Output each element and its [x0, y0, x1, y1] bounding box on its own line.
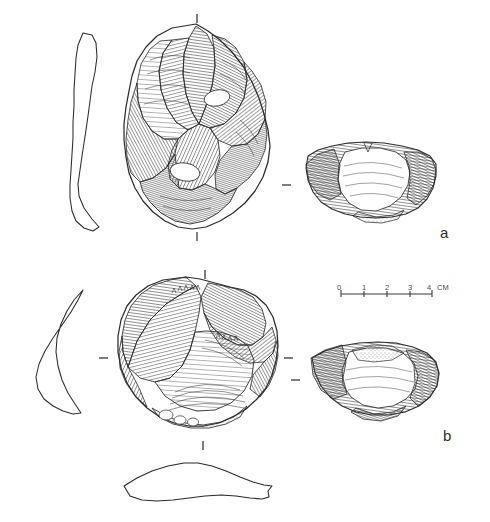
figure-a-cross-section — [306, 142, 436, 223]
lithic-drawing-canvas: 0 1 2 3 4 CM — [0, 0, 490, 522]
scale-label-3: 3 — [408, 283, 412, 292]
figure-b-basal-profile — [124, 463, 272, 501]
scale-label-4: 4 — [427, 283, 431, 292]
figure-b-dorsal-face — [118, 277, 278, 428]
scale-label-0: 0 — [337, 283, 341, 292]
scale-label-1: 1 — [362, 283, 366, 292]
figure-b-cross-section — [311, 342, 439, 421]
figure-a-dorsal-face — [124, 24, 270, 229]
figure-a — [70, 14, 436, 241]
figure-label-a: a — [440, 224, 449, 241]
figure-b — [36, 270, 439, 501]
illustration-plate: 0 1 2 3 4 CM — [0, 0, 490, 522]
scale-label-2: 2 — [385, 283, 389, 292]
scale-unit-label: CM — [437, 283, 449, 292]
figure-label-b: b — [443, 427, 452, 444]
figure-b-lateral-profile — [36, 290, 83, 414]
scale-bar: 0 1 2 3 4 CM — [337, 283, 449, 297]
figure-a-lateral-profile — [70, 33, 99, 231]
